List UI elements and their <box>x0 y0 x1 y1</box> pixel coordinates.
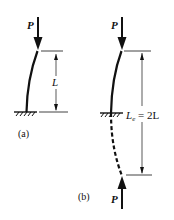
load-label: P <box>27 19 34 31</box>
load-arrow-up-icon <box>118 176 127 209</box>
column-buckling-diagram: P L (a) P <box>0 0 174 220</box>
length-label: L <box>51 76 58 88</box>
effective-length-label: Le = 2L <box>125 109 159 123</box>
caption-a: (a) <box>18 128 29 140</box>
fixed-support-icon <box>14 112 37 116</box>
caption-b: (b) <box>78 191 90 203</box>
load-label-top: P <box>111 19 118 31</box>
load-arrow-down-icon <box>118 17 127 50</box>
column-curve-dashed <box>111 113 122 176</box>
panel-b: P Le = 2L P ( <box>78 17 159 209</box>
load-arrow-down-icon <box>34 17 43 50</box>
panel-a: P L (a) <box>14 17 68 140</box>
column-curve <box>27 51 38 112</box>
column-curve-solid <box>111 51 122 113</box>
load-label-bottom: P <box>111 193 118 205</box>
